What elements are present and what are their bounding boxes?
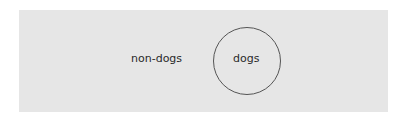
- non-dogs-label: non-dogs: [131, 52, 182, 65]
- universe-region: [19, 10, 388, 112]
- dogs-label: dogs: [233, 52, 259, 65]
